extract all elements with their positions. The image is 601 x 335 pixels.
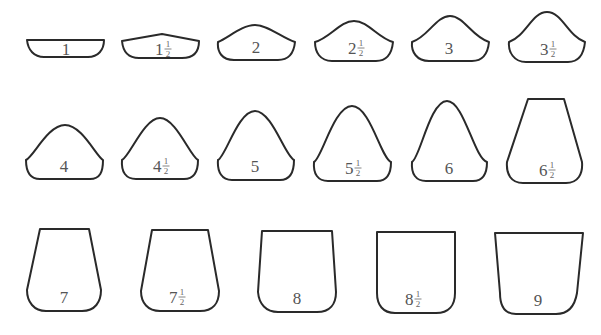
fraction-numerator: 1 xyxy=(550,160,555,170)
size-label: 4 xyxy=(60,157,69,176)
size-label: 5 xyxy=(251,157,260,176)
fraction-numerator: 1 xyxy=(359,38,364,48)
size-shape-s7: 7 xyxy=(27,229,101,311)
size-shape-s4: 4 xyxy=(26,125,103,179)
size-label: 2 xyxy=(348,39,357,58)
fraction-denominator: 2 xyxy=(164,166,169,176)
size-label: 7 xyxy=(60,288,69,307)
size-label: 3 xyxy=(445,39,454,58)
size-shape-s9: 9 xyxy=(495,233,583,314)
fraction-denominator: 2 xyxy=(166,49,171,59)
size-label: 1 xyxy=(155,40,164,59)
size-shape-s3h: 312 xyxy=(509,12,585,62)
size-shape-s8: 8 xyxy=(258,231,336,312)
fraction-denominator: 2 xyxy=(356,168,361,178)
size-label: 2 xyxy=(252,38,261,57)
size-label: 6 xyxy=(539,161,548,180)
size-shape-s1: 1 xyxy=(27,40,104,59)
size-label: 4 xyxy=(153,157,162,176)
fraction-denominator: 2 xyxy=(416,299,421,309)
shape-row-3: 771288129 xyxy=(27,229,583,314)
size-shape-s5h: 512 xyxy=(314,106,391,181)
size-shape-s6h: 612 xyxy=(507,99,582,183)
shape-size-diagram: 111222123312441255126612771288129 xyxy=(0,0,601,335)
size-shape-s7h: 712 xyxy=(141,230,219,311)
size-shape-s8h: 812 xyxy=(377,232,455,313)
fraction-numerator: 1 xyxy=(356,158,361,168)
size-label: 8 xyxy=(293,289,302,308)
size-label: 3 xyxy=(540,40,549,59)
shape-row-1: 111222123312 xyxy=(27,12,585,62)
size-label: 5 xyxy=(345,159,354,178)
fraction-numerator: 1 xyxy=(166,39,171,49)
size-shape-s5: 5 xyxy=(218,111,294,180)
fraction-denominator: 2 xyxy=(550,170,555,180)
size-label: 6 xyxy=(445,159,454,178)
size-shape-s6: 6 xyxy=(412,101,487,181)
shape-row-2: 441255126612 xyxy=(26,99,582,183)
fraction-numerator: 1 xyxy=(180,287,185,297)
size-shape-s3: 3 xyxy=(412,16,489,61)
size-label: 8 xyxy=(405,290,414,309)
fraction-numerator: 1 xyxy=(416,289,421,299)
fraction-denominator: 2 xyxy=(359,48,364,58)
size-label: 7 xyxy=(169,288,178,307)
size-shape-s4h: 412 xyxy=(122,118,198,179)
size-shape-s1h: 112 xyxy=(122,34,199,59)
size-label: 9 xyxy=(534,291,543,310)
fraction-numerator: 1 xyxy=(164,156,169,166)
fraction-numerator: 1 xyxy=(551,39,556,49)
size-shape-s2h: 212 xyxy=(315,21,393,61)
size-shape-s2: 2 xyxy=(218,25,295,60)
size-label: 1 xyxy=(62,40,71,59)
fraction-denominator: 2 xyxy=(180,297,185,307)
fraction-denominator: 2 xyxy=(551,49,556,59)
